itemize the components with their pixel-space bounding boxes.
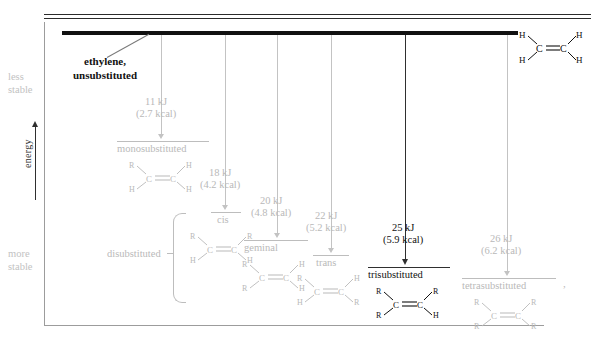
svg-text:C: C	[283, 273, 289, 283]
label-trisubstituted: trisubstituted	[368, 269, 423, 281]
mono-atom-bl: H	[129, 185, 135, 194]
structure-ethylene: H H H H C C	[515, 26, 587, 66]
cis-atom-tl: R	[190, 232, 196, 241]
tetra-atom-bl: R	[474, 322, 480, 331]
tetra-atom-br: R	[531, 322, 537, 331]
level-line-tetrasubstituted	[462, 278, 556, 279]
arrow-tip-cis	[222, 205, 228, 210]
axis-label-less-stable: less stable	[8, 70, 33, 96]
svg-text:C: C	[338, 287, 344, 297]
structure-trans: R H H R C C	[293, 270, 365, 308]
tri-atom-bl: R	[376, 311, 382, 320]
arrow-tip-geminal	[274, 233, 280, 238]
cis-atom-bl: H	[190, 256, 196, 265]
structure-trisubstituted: R R R H C C	[372, 283, 444, 321]
arrow-tip-tetrasubstituted	[504, 271, 510, 276]
label-geminal: geminal	[244, 242, 278, 254]
svg-text:C: C	[393, 300, 399, 310]
level-line-cis	[211, 212, 241, 213]
axis-label-more-stable: more stable	[8, 247, 33, 273]
trans-atom-br: R	[354, 298, 360, 307]
svg-text:C: C	[314, 287, 320, 297]
ethylene-atom-tl: H	[519, 30, 526, 40]
tri-atom-br: H	[433, 311, 439, 320]
label-tetrasubstituted: tetrasubstituted	[462, 280, 526, 292]
arrow-tip-trans	[328, 248, 334, 253]
value-monosubstituted: 11 kJ (2.7 kcal)	[136, 96, 176, 121]
dropline-monosubstituted	[161, 35, 162, 136]
alkene-stability-diagram: less stable more stable energy ethylene,…	[0, 0, 591, 346]
label-disubstituted: disubstituted	[107, 248, 161, 259]
mono-atom-tl: R	[129, 161, 135, 170]
tri-atom-tl: R	[376, 287, 382, 296]
label-trans: trans	[316, 257, 336, 269]
geminal-atom-tl: R	[242, 260, 248, 269]
svg-text:C: C	[259, 273, 265, 283]
ethylene-atom-bl: H	[519, 55, 526, 65]
value-geminal: 20 kJ (4.8 kcal)	[251, 195, 291, 220]
tetra-atom-tr: R	[531, 298, 537, 307]
trans-atom-tl: R	[297, 274, 303, 283]
top-rule-upper	[44, 14, 591, 15]
mono-atom-tr: H	[186, 161, 192, 170]
mono-atom-br: H	[186, 185, 192, 194]
tetra-atom-tl: R	[474, 298, 480, 307]
value-trisubstituted: 25 kJ (5.9 kcal)	[383, 222, 423, 247]
ethylene-atom-br: H	[576, 55, 583, 65]
geminal-atom-bl: R	[242, 284, 248, 293]
axis-label-energy: energy	[22, 139, 33, 168]
tri-atom-tr: R	[433, 287, 439, 296]
disubstituted-brace	[173, 213, 186, 303]
structure-tetrasubstituted: R R R R C C	[470, 294, 542, 332]
value-trans: 22 kJ (5.2 kcal)	[306, 210, 346, 235]
level-line-monosubstituted	[117, 141, 209, 142]
svg-text:C: C	[207, 245, 213, 255]
geminal-atom-tr: H	[299, 260, 305, 269]
y-axis	[44, 22, 45, 325]
svg-text:C: C	[515, 311, 521, 321]
level-line-geminal	[244, 240, 308, 241]
trailing-mark: ,	[563, 277, 566, 289]
ethylene-label: ethylene, unsubstituted	[55, 55, 155, 83]
trans-atom-tr: H	[354, 274, 360, 283]
label-monosubstituted: monosubstituted	[117, 143, 186, 155]
level-line-trans	[313, 255, 349, 256]
svg-text:C: C	[146, 174, 152, 184]
structure-monosubstituted: R H H H C C	[125, 157, 197, 195]
svg-text:C: C	[417, 300, 423, 310]
top-rule-lower	[44, 18, 591, 19]
arrow-tip-trisubstituted	[402, 259, 408, 265]
svg-text:C: C	[491, 311, 497, 321]
value-tetrasubstituted: 26 kJ (6.2 kcal)	[481, 233, 521, 258]
trans-atom-bl: H	[297, 298, 303, 307]
energy-arrow-shaft	[35, 125, 36, 200]
svg-text:C: C	[170, 174, 176, 184]
energy-arrow-head-icon	[32, 121, 38, 127]
ethylene-atom-tr: H	[576, 30, 583, 40]
svg-text:C: C	[231, 245, 237, 255]
svg-text:C: C	[560, 43, 567, 54]
ethylene-baseline	[62, 31, 518, 35]
arrow-tip-monosubstituted	[158, 134, 164, 139]
disubstituted-brace-nub	[167, 253, 174, 254]
value-cis: 18 kJ (4.2 kcal)	[200, 167, 240, 192]
label-cis: cis	[217, 214, 229, 226]
x-axis	[44, 325, 544, 326]
